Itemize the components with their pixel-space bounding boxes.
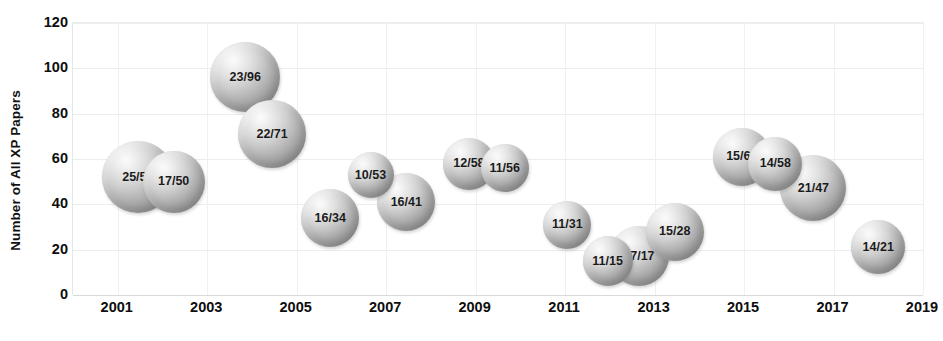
gridline-vertical	[834, 23, 835, 295]
y-axis-tick-label: 100	[24, 60, 68, 75]
bubble-label: 21/47	[798, 182, 829, 195]
bubble-label: 15/28	[659, 225, 690, 238]
bubble-data-point[interactable]: 17/50	[143, 151, 205, 213]
bubble-data-point[interactable]: 14/58	[748, 137, 802, 191]
bubble-data-point[interactable]: 10/53	[348, 152, 394, 198]
x-axis-tick-labels: 2001200320052007200920112013201520172019	[72, 300, 924, 328]
bubble-label: 11/31	[552, 218, 583, 231]
bubble-label: 11/15	[592, 255, 623, 268]
bubble-data-point[interactable]: 16/34	[301, 189, 359, 247]
bubble-label: 16/41	[391, 196, 422, 209]
x-axis-tick-label: 2013	[619, 300, 689, 315]
bubble-data-point[interactable]: 11/31	[543, 201, 591, 249]
y-axis-tick-label: 20	[24, 241, 68, 256]
gridline-vertical	[565, 23, 566, 295]
gridline-horizontal	[73, 114, 923, 115]
x-axis-tick-label: 2011	[529, 300, 599, 315]
bubble-data-point[interactable]: 14/21	[851, 220, 905, 274]
x-axis-tick-label: 2017	[798, 300, 868, 315]
y-axis-tick-label: 0	[24, 287, 68, 302]
bubble-label: 14/21	[863, 241, 894, 254]
y-axis-tick-label: 60	[24, 151, 68, 166]
gridline-vertical	[207, 23, 208, 295]
x-axis-tick-label: 2007	[350, 300, 420, 315]
bubble-label: 23/96	[230, 71, 261, 84]
y-axis-tick-labels: 020406080100120	[20, 0, 68, 341]
bubble-label: 17/50	[158, 175, 189, 188]
y-axis-tick-label: 120	[24, 15, 68, 30]
bubble-data-point[interactable]: 11/56	[481, 144, 529, 192]
bubble-data-point[interactable]: 22/71	[238, 100, 306, 168]
y-axis-tick-label: 80	[24, 105, 68, 120]
gridline-horizontal	[73, 23, 923, 24]
x-axis-tick-label: 2015	[708, 300, 778, 315]
bubble-label: 11/56	[489, 162, 520, 175]
bubble-label: 14/58	[760, 157, 791, 170]
x-axis-tick-label: 2019	[887, 300, 943, 315]
x-axis-tick-label: 2003	[171, 300, 241, 315]
gridline-vertical	[297, 23, 298, 295]
plot-area: 25/5217/5023/9622/7116/3410/5316/4112/58…	[72, 22, 924, 295]
bubble-label: 22/71	[256, 128, 287, 141]
gridline-horizontal	[73, 250, 923, 251]
bubble-data-point[interactable]: 15/28	[646, 203, 704, 261]
y-axis-tick-label: 40	[24, 196, 68, 211]
bubble-label: 16/34	[315, 212, 346, 225]
gridline-vertical	[923, 23, 924, 295]
bubble-label: 10/53	[355, 169, 386, 182]
x-axis-tick-label: 2005	[261, 300, 331, 315]
x-axis-tick-label: 2009	[440, 300, 510, 315]
gridline-horizontal	[73, 68, 923, 69]
gridline-horizontal	[73, 295, 923, 296]
bubble-data-point[interactable]: 11/15	[583, 236, 633, 286]
x-axis-tick-label: 2001	[82, 300, 152, 315]
